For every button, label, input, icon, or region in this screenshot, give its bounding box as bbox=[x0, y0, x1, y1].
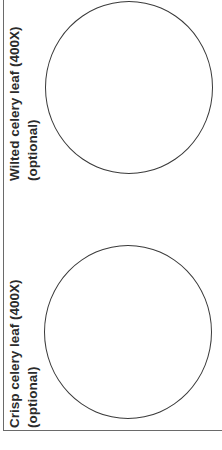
drawing-circle-wilted bbox=[45, 1, 213, 174]
panel-label-crisp: Crisp celery leaf (400X) (optional) bbox=[6, 279, 42, 428]
panel-title: Wilted celery leaf (400X) bbox=[6, 27, 24, 181]
panel-title: Crisp celery leaf (400X) bbox=[6, 279, 24, 428]
table-border-left bbox=[3, 0, 4, 431]
table-border-bottom bbox=[3, 430, 222, 431]
drawing-circle-crisp bbox=[44, 245, 212, 419]
panel-subtitle: (optional) bbox=[24, 279, 42, 428]
panel-subtitle: (optional) bbox=[24, 27, 42, 181]
panel-label-wilted: Wilted celery leaf (400X) (optional) bbox=[6, 27, 42, 181]
